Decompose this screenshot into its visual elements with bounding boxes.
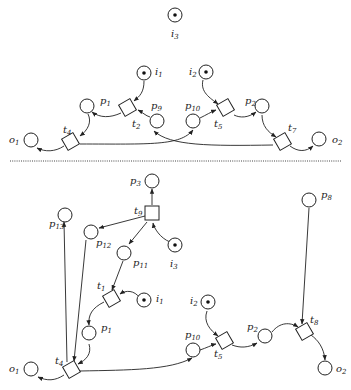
place-p2-bot: p2 bbox=[247, 321, 272, 343]
arc-i1-t2 bbox=[134, 81, 144, 101]
svg-text:p12: p12 bbox=[96, 237, 112, 250]
arc-p1-t4 bbox=[78, 344, 90, 364]
svg-text:t4: t4 bbox=[63, 124, 72, 137]
arc-t4-p10 bbox=[80, 358, 192, 371]
svg-text:i1: i1 bbox=[156, 293, 164, 306]
petri-net-diagram: i3 i1 i2 p1 p9 p10 p2 o1 bbox=[0, 0, 351, 390]
transition-t4-bot: t4 bbox=[55, 355, 80, 378]
place-p1-top: p1 bbox=[80, 95, 111, 113]
svg-text:t5: t5 bbox=[214, 118, 223, 131]
place-i1-bot: i1 bbox=[137, 293, 164, 307]
svg-text:t5: t5 bbox=[214, 348, 223, 361]
place-p3-bot: p3 bbox=[130, 174, 159, 188]
place-i2-bot: i2 bbox=[190, 295, 215, 309]
svg-text:o2: o2 bbox=[336, 363, 347, 376]
arc-p11-t1 bbox=[112, 261, 123, 290]
svg-text:t9: t9 bbox=[134, 205, 143, 218]
svg-text:p11: p11 bbox=[133, 257, 148, 270]
place-p9-top: p9 bbox=[150, 100, 164, 128]
place-i1-top: i1 bbox=[137, 66, 163, 80]
place-p10-top: p10 bbox=[185, 100, 201, 128]
transition-t5-bot: t5 bbox=[214, 332, 233, 361]
svg-text:p10: p10 bbox=[185, 100, 201, 113]
transition-t4-top: t4 bbox=[62, 124, 80, 150]
token bbox=[142, 71, 146, 75]
svg-text:t1: t1 bbox=[97, 280, 106, 293]
token bbox=[173, 243, 177, 247]
svg-text:o1: o1 bbox=[9, 363, 20, 376]
svg-text:o2: o2 bbox=[332, 134, 343, 147]
svg-text:p3: p3 bbox=[130, 175, 141, 188]
arc-t8-o2 bbox=[311, 335, 325, 360]
place-p1-bot: p1 bbox=[82, 322, 112, 340]
svg-text:t8: t8 bbox=[310, 314, 319, 327]
transition-t9-bot: t9 bbox=[134, 205, 159, 220]
arc-t5-p2 bbox=[234, 112, 256, 117]
place-o2-bot: o2 bbox=[318, 361, 347, 376]
place-p11-bot: p11 bbox=[117, 246, 148, 270]
svg-text:i2: i2 bbox=[190, 295, 198, 308]
place-p10-bot: p10 bbox=[185, 329, 201, 357]
place-o1-top: o1 bbox=[9, 133, 38, 147]
arc-t4-o1 bbox=[38, 375, 64, 380]
svg-text:i1: i1 bbox=[155, 66, 163, 79]
svg-text:i3: i3 bbox=[170, 258, 178, 271]
arc-i2-t5 bbox=[206, 311, 218, 336]
place-i3-top: i3 bbox=[168, 8, 182, 41]
token bbox=[206, 300, 210, 304]
place-p13-bot: p13 bbox=[49, 208, 72, 231]
transition-t1-bot: t1 bbox=[97, 280, 120, 307]
svg-text:o1: o1 bbox=[9, 134, 20, 147]
arc-p2-t7 bbox=[262, 115, 276, 137]
transition-t8-bot: t8 bbox=[296, 314, 319, 340]
arc-p8-t8 bbox=[302, 208, 309, 324]
bottom-net: p3 p13 p12 p11 i3 i1 p1 o bbox=[9, 174, 347, 380]
arc-p10-t5 bbox=[200, 110, 216, 118]
place-p12-bot: p12 bbox=[84, 225, 112, 250]
svg-text:p2: p2 bbox=[247, 321, 258, 334]
arc-p1-t4 bbox=[80, 114, 90, 136]
place-i2-top: i2 bbox=[189, 65, 213, 79]
arc-i1-t1 bbox=[120, 291, 140, 298]
svg-text:p9: p9 bbox=[151, 100, 162, 113]
arc-p9-t2 bbox=[138, 110, 150, 117]
transition-t2-top: t2 bbox=[119, 99, 141, 131]
svg-text:p1: p1 bbox=[100, 95, 111, 108]
svg-text:p1: p1 bbox=[101, 322, 112, 335]
svg-text:p8: p8 bbox=[321, 189, 332, 202]
svg-text:t4: t4 bbox=[55, 355, 64, 368]
arc-t4-p13 bbox=[64, 222, 67, 362]
arc-t7-o2 bbox=[290, 146, 313, 151]
place-p2-top: p2 bbox=[245, 95, 269, 113]
token bbox=[142, 298, 146, 302]
arc-p2-t8 bbox=[272, 324, 298, 332]
svg-text:p2: p2 bbox=[245, 95, 256, 108]
token bbox=[204, 70, 208, 74]
place-i3-bot: i3 bbox=[168, 238, 182, 271]
svg-text:i2: i2 bbox=[189, 66, 197, 79]
place-o2-top: o2 bbox=[312, 132, 343, 147]
arc-t9-p11 bbox=[129, 222, 147, 244]
svg-text:i3: i3 bbox=[171, 28, 179, 41]
arc-t4-o1 bbox=[37, 146, 64, 151]
top-net: i3 i1 i2 p1 p9 p10 p2 o1 bbox=[9, 8, 343, 151]
arc-p12-t4 bbox=[74, 240, 86, 361]
arc-t2-p1 bbox=[92, 112, 121, 117]
arc-i3-t9 bbox=[153, 223, 170, 242]
arc-t4-p10 bbox=[80, 130, 193, 144]
token bbox=[173, 13, 177, 17]
arc-i2-t5 bbox=[202, 80, 218, 104]
place-o1-bot: o1 bbox=[9, 362, 38, 376]
svg-text:t2: t2 bbox=[132, 118, 141, 131]
place-p8-bot: p8 bbox=[302, 189, 332, 207]
arc-t7-p9 bbox=[154, 131, 273, 145]
arc-t5-p2 bbox=[232, 343, 257, 347]
svg-text:t7: t7 bbox=[288, 122, 297, 135]
transition-t7-top: t7 bbox=[274, 122, 297, 150]
svg-text:p10: p10 bbox=[185, 329, 201, 342]
